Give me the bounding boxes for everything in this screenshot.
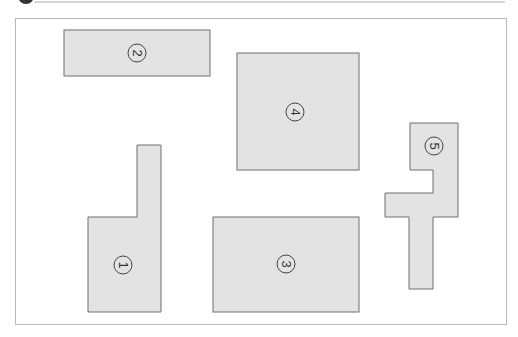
figure-canvas: 1 2 3 4 5 [0, 0, 518, 337]
shape-3: 3 [213, 217, 359, 312]
svg-text:4: 4 [288, 108, 303, 115]
svg-text:2: 2 [130, 49, 145, 56]
shape-5: 5 [385, 123, 458, 289]
shape-4: 4 [237, 53, 359, 170]
shape-2: 2 [64, 30, 210, 76]
svg-text:3: 3 [279, 260, 294, 267]
shape-1: 1 [88, 145, 161, 312]
header-dot [18, 0, 34, 4]
svg-text:1: 1 [116, 261, 131, 268]
svg-text:5: 5 [427, 142, 442, 149]
